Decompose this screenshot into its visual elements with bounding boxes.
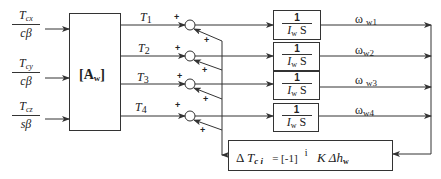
feedback-equation: Δ Tc i = [-1] i K Δhw <box>236 148 349 166</box>
plus-sign: + <box>174 13 179 22</box>
matrix-block-label: [Aw] <box>79 68 105 83</box>
transfer-block-1: 1 Iw S <box>274 12 320 40</box>
output-label-w1: ω w1 <box>355 13 377 27</box>
output-label-w2: ωw2 <box>355 44 374 58</box>
plus-sign: + <box>204 36 209 45</box>
output-label-w4: ωw4 <box>355 104 374 118</box>
torque-label-2: T2 <box>138 42 150 56</box>
transfer-block-2: 1 Iw S <box>274 43 320 71</box>
plus-sign: + <box>203 95 208 104</box>
plus-sign: + <box>175 44 180 53</box>
transfer-block-4: 1 Iw S <box>274 104 319 132</box>
input-tcz: Tcz sβ <box>12 99 40 132</box>
torque-label-4: T4 <box>135 101 147 115</box>
torque-label-1: T1 <box>140 11 152 25</box>
plus-sign: + <box>202 66 207 75</box>
transfer-block-3: 1 Iw S <box>274 72 320 100</box>
input-tcx: Tcx cβ <box>12 8 40 41</box>
torque-label-3: T3 <box>137 71 149 85</box>
output-label-w3: ω w3 <box>355 74 377 88</box>
input-tcy: Tcy cβ <box>12 56 40 89</box>
plus-sign: + <box>177 72 182 81</box>
plus-sign: + <box>175 101 180 110</box>
plus-sign: + <box>200 126 205 135</box>
